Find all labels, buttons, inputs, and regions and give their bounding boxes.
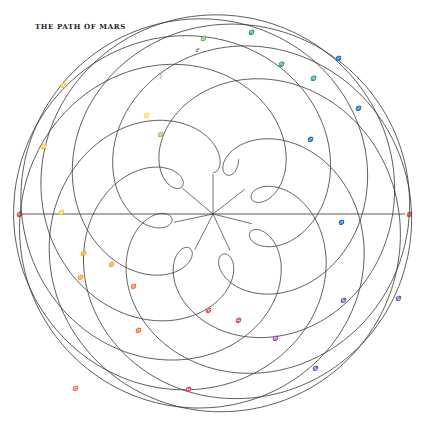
zodiac-label: ♐ [338, 219, 346, 226]
zodiac-label: ♏ [248, 29, 256, 36]
zodiac-label: ♏ [310, 75, 318, 82]
zodiac-label: ♉ [135, 327, 143, 334]
axis-right-label: ♈ [406, 211, 414, 218]
zodiac-label: ♊ [77, 274, 85, 281]
spoke-line [213, 189, 245, 214]
spokes [174, 174, 252, 250]
zodiac-label: ♎ [200, 35, 208, 42]
spoke-line [195, 214, 213, 250]
zodiac-label: ♐ [335, 55, 343, 62]
zodiac-label: ♂ [195, 47, 200, 53]
zodiac-label: ♊ [108, 261, 116, 268]
spoke-line [213, 214, 252, 224]
zodiac-label: ♌ [143, 112, 151, 119]
zodiac-label: ♈ [205, 307, 213, 314]
zodiac-label: ♊ [80, 250, 88, 257]
zodiac-label: ♑ [395, 295, 403, 302]
zodiac-label: ♓ [235, 317, 243, 324]
zodiac-label: ♋ [58, 209, 66, 216]
zodiac-label: ♋ [40, 143, 48, 150]
zodiac-label: ♑ [340, 297, 348, 304]
zodiac-label: ♉ [130, 283, 138, 290]
mars-path-diagram: ♈ ♈ ♂|♎♏♏♏♐♐♐♋♋♋♊♌♍♊♉♉♈♓♒♑♓♉♑♑♐♊ [0, 0, 426, 433]
zodiac-label: ♑ [312, 365, 320, 372]
spoke-line [182, 188, 213, 214]
zodiac-label: ♉ [72, 385, 80, 392]
spoke-line [213, 214, 230, 250]
zodiac-label: ♐ [307, 136, 315, 143]
zodiac-label: ♏ [278, 61, 286, 68]
zodiac-label: | [160, 73, 162, 80]
spoke-line [174, 214, 213, 222]
zodiac-label: ♐ [355, 105, 363, 112]
